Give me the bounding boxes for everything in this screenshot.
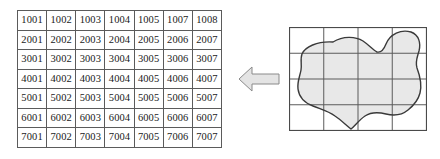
table-cell: 6006: [163, 108, 192, 128]
table-cell: 3001: [18, 50, 47, 70]
table-cell: 5003: [76, 89, 105, 109]
table-cell: 3005: [134, 50, 163, 70]
table-cell: 4002: [47, 69, 76, 89]
table-row: 1001 1002 1003 1004 1005 1007 1008: [18, 11, 222, 31]
table-cell: 2006: [163, 30, 192, 50]
table-cell: 2003: [76, 30, 105, 50]
table-row: 6001 6002 6003 6004 6005 6006 6007: [18, 108, 222, 128]
table-row: 5001 5002 5003 5004 5005 5006 5007: [18, 89, 222, 109]
table-cell: 5002: [47, 89, 76, 109]
table-cell: 3004: [105, 50, 134, 70]
table-cell: 4007: [192, 69, 221, 89]
table-cell: 4003: [76, 69, 105, 89]
arrow-container: [238, 64, 280, 94]
vector-panel-container: [289, 27, 427, 131]
table-cell: 1008: [192, 11, 221, 31]
table-cell: 4006: [163, 69, 192, 89]
table-cell: 2004: [105, 30, 134, 50]
table-row: 3001 3002 3003 3004 3005 3006 3007: [18, 50, 222, 70]
table-cell: 5005: [134, 89, 163, 109]
table-cell: 3002: [47, 50, 76, 70]
table-cell: 7007: [192, 128, 221, 148]
table-cell: 1005: [134, 11, 163, 31]
table-cell: 1001: [18, 11, 47, 31]
table-cell: 4001: [18, 69, 47, 89]
left-arrow-icon: [238, 64, 280, 94]
table-row: 7001 7002 7003 7004 7005 7006 7007: [18, 128, 222, 148]
table-cell: 7001: [18, 128, 47, 148]
table-cell: 6005: [134, 108, 163, 128]
table-cell: 3006: [163, 50, 192, 70]
table-cell: 2002: [47, 30, 76, 50]
table-cell: 7003: [76, 128, 105, 148]
table-cell: 5007: [192, 89, 221, 109]
table-cell: 6007: [192, 108, 221, 128]
raster-table-container: 1001 1002 1003 1004 1005 1007 1008 2001 …: [17, 10, 222, 148]
table-cell: 2005: [134, 30, 163, 50]
table-cell: 6002: [47, 108, 76, 128]
table-cell: 7006: [163, 128, 192, 148]
table-cell: 7002: [47, 128, 76, 148]
table-cell: 5004: [105, 89, 134, 109]
table-cell: 1003: [76, 11, 105, 31]
raster-cell-id-grid: 1001 1002 1003 1004 1005 1007 1008 2001 …: [17, 10, 222, 148]
table-cell: 3007: [192, 50, 221, 70]
figure-canvas: 1001 1002 1003 1004 1005 1007 1008 2001 …: [0, 0, 440, 159]
table-cell: 1004: [105, 11, 134, 31]
table-cell: 3003: [76, 50, 105, 70]
vector-diagram: [289, 27, 427, 131]
table-cell: 7005: [134, 128, 163, 148]
table-cell: 5001: [18, 89, 47, 109]
table-cell: 2007: [192, 30, 221, 50]
table-cell: 2001: [18, 30, 47, 50]
left-arrow-shape: [239, 67, 279, 91]
table-cell: 1007: [163, 11, 192, 31]
table-row: 4001 4002 4003 4004 4005 4006 4007: [18, 69, 222, 89]
table-cell: 1002: [47, 11, 76, 31]
table-cell: 6003: [76, 108, 105, 128]
table-row: 2001 2002 2003 2004 2005 2006 2007: [18, 30, 222, 50]
table-cell: 7004: [105, 128, 134, 148]
table-cell: 4005: [134, 69, 163, 89]
table-cell: 6004: [105, 108, 134, 128]
table-cell: 4004: [105, 69, 134, 89]
table-cell: 6001: [18, 108, 47, 128]
table-cell: 5006: [163, 89, 192, 109]
